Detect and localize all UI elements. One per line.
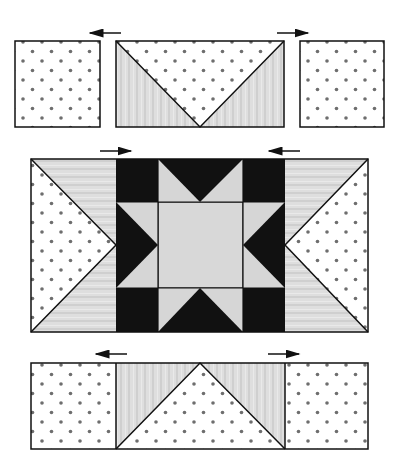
bottom-row xyxy=(31,354,368,449)
flying-geese xyxy=(116,363,285,449)
top-row xyxy=(15,33,384,127)
star-center xyxy=(158,202,243,288)
dot-square-right xyxy=(285,363,368,449)
sawtooth-star xyxy=(116,159,285,332)
flying-geese-inverted xyxy=(116,41,284,127)
dot-square-right xyxy=(300,41,384,127)
middle-row xyxy=(31,151,368,332)
dot-square-left xyxy=(31,363,116,449)
side-unit-right xyxy=(285,159,368,332)
dot-square-left xyxy=(15,41,100,127)
quilt-assembly-diagram xyxy=(0,0,403,475)
side-unit-left xyxy=(31,159,116,332)
